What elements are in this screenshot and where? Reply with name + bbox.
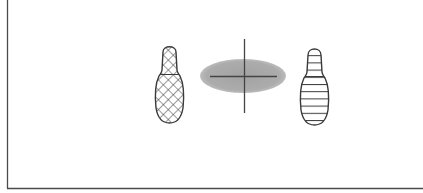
diagram-canvas [0,0,423,193]
crosshair-icon [210,39,277,113]
right-footprint-striped [300,49,328,125]
diagram-svg [0,0,423,193]
left-footprint-crosshatch [155,47,183,123]
